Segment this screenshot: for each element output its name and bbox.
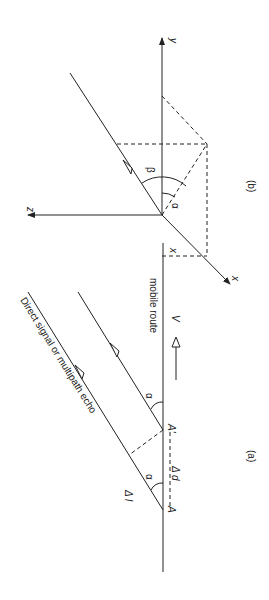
velocity-label: V <box>170 315 181 323</box>
inner-arrow-icon <box>110 343 119 357</box>
caption-b: (b) <box>246 180 257 192</box>
velocity-arrow-icon <box>172 337 180 347</box>
point-a-label: A <box>166 505 177 513</box>
alpha-arc-1 <box>151 402 163 409</box>
alpha-label: α <box>170 203 181 209</box>
figure-b: y x z β α (b) <box>25 37 257 284</box>
beta-label: β <box>145 167 156 173</box>
route-x-label: x <box>168 247 179 254</box>
caption-a: (a) <box>246 450 257 462</box>
signal-label: Direct signal or multipath echo <box>18 295 99 415</box>
axis-x-label: x <box>230 275 241 282</box>
diagram-svg: y x z β α (b) x mobile route V Direct si… <box>0 0 269 600</box>
alpha-arc-2 <box>151 483 163 490</box>
point-a-prime-label: A' <box>166 423 177 434</box>
delta-l-label: Δ l <box>123 489 134 502</box>
mobile-route-label: mobile route <box>148 278 159 333</box>
alpha-label-1: α <box>144 393 155 399</box>
delta-d-label: Δ d <box>170 465 181 481</box>
alpha-label-2: α <box>144 474 155 480</box>
figure-a: x mobile route V Direct signal or multip… <box>18 243 257 572</box>
signal-line-outer <box>28 292 163 510</box>
diagram: y x z β α (b) x mobile route V Direct si… <box>0 0 269 600</box>
axis-y-label: y <box>168 37 179 44</box>
delta-l-dashed <box>129 430 163 455</box>
axis-z-label: z <box>25 206 36 212</box>
alpha-arc <box>162 193 175 197</box>
beta-arc <box>142 177 186 186</box>
